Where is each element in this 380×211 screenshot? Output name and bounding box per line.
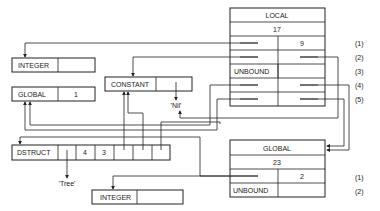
nil-label: 'Nil' <box>171 102 182 109</box>
local-index-1: (1) <box>355 40 364 48</box>
svg-text:GLOBAL: GLOBAL <box>18 91 46 98</box>
svg-text:DSTRUCT: DSTRUCT <box>17 149 51 156</box>
svg-text:3: 3 <box>102 149 106 156</box>
svg-text:INTEGER: INTEGER <box>100 194 131 201</box>
dstruct-cell: DSTRUCT 4 3 <box>12 145 170 160</box>
global-row1-value: 2 <box>300 173 304 180</box>
local-index-3: (3) <box>355 68 364 76</box>
local-index-5: (5) <box>355 96 364 104</box>
global-index-1: (1) <box>355 174 364 182</box>
local-size: 17 <box>273 26 281 33</box>
global-row2-unbound: UNBOUND <box>233 187 268 194</box>
local-index-4: (4) <box>355 82 364 90</box>
integer-cell-top: INTEGER <box>12 58 95 72</box>
local-row1-value: 9 <box>300 40 304 47</box>
constant-cell: CONSTANT <box>105 77 192 91</box>
local-header: LOCAL <box>266 12 289 19</box>
svg-text:CONSTANT: CONSTANT <box>111 81 150 88</box>
global-header: GLOBAL <box>263 145 291 152</box>
global-size: 23 <box>273 159 281 166</box>
svg-text:1: 1 <box>74 91 78 98</box>
integer-cell-bottom: INTEGER <box>92 190 183 204</box>
global-frame: GLOBAL 23 2 UNBOUND (1) (2) <box>230 140 364 197</box>
local-row3-unbound: UNBOUND <box>234 68 269 75</box>
global-cell: GLOBAL 1 <box>12 87 95 101</box>
global-index-2: (2) <box>355 188 364 196</box>
tree-label: 'Tree' <box>59 180 76 187</box>
memory-diagram: LOCAL 17 9 UNBOUND (1) (2) (3) (4) (5) G… <box>0 0 380 211</box>
svg-text:4: 4 <box>83 149 87 156</box>
local-index-2: (2) <box>355 54 364 62</box>
svg-text:INTEGER: INTEGER <box>18 62 49 69</box>
